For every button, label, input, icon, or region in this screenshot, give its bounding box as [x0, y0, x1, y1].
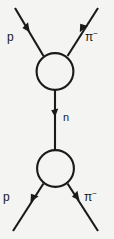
label-pion-bottom-right-charge: − — [92, 189, 97, 198]
label-pion-top-right-charge: − — [93, 29, 98, 38]
upper-left-arrowhead-icon — [21, 22, 33, 34]
label-neutron-middle: n — [63, 112, 69, 123]
upper-left-proton-line — [15, 8, 44, 56]
label-pion-bottom-right: π− — [84, 191, 97, 203]
feynman-diagram-figure: p π− n p π− — [0, 0, 114, 239]
label-neutron-middle-symbol: n — [63, 111, 69, 123]
label-proton-top-left-symbol: p — [7, 30, 14, 44]
upper-interaction-blob — [37, 53, 74, 90]
label-proton-bottom-left: p — [3, 191, 10, 203]
lower-left-proton-line — [13, 184, 44, 232]
label-proton-top-left: p — [7, 31, 14, 43]
label-pion-top-right: π− — [85, 31, 98, 43]
lower-interaction-blob — [37, 150, 74, 187]
neutron-arrowhead-icon — [51, 108, 58, 117]
label-proton-bottom-left-symbol: p — [3, 190, 10, 204]
